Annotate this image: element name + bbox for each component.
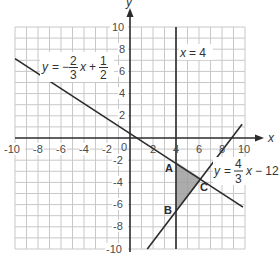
svg-text:x: x [179,46,187,60]
svg-text:+: + [89,60,96,74]
svg-text:x: x [79,60,87,74]
svg-text:-2: -2 [113,154,123,166]
point-label-b: B [164,204,172,216]
point-label-a: A [165,162,173,174]
svg-text:-4: -4 [79,143,89,155]
svg-text:4: 4 [173,143,179,155]
point-label-c: C [200,181,208,193]
line-y-4-3x-minus-12 [147,124,242,249]
equation-label-line1: y = − 2 3 x + 1 2 [40,52,114,82]
svg-text:1: 1 [100,54,107,68]
svg-text:-6: -6 [113,198,123,210]
svg-text:-2: -2 [102,143,112,155]
equation-label-line3: x = 4 [179,44,213,60]
svg-text:y: y [41,60,49,74]
svg-text:-4: -4 [113,176,123,188]
svg-text:6: 6 [196,143,202,155]
svg-text:4: 4 [235,157,242,171]
origin-label: 0 [121,141,127,153]
x-axis-arrow-icon [255,135,264,142]
equation-label-line2: y = 4 3 x − 12 [213,157,279,186]
svg-text:-10: -10 [106,243,122,255]
svg-text:8: 8 [219,143,225,155]
svg-text:8: 8 [119,43,125,55]
svg-text:−: − [62,60,69,74]
svg-text:2: 2 [150,143,156,155]
svg-text:y: y [213,164,221,178]
svg-text:2: 2 [70,54,77,68]
svg-text:=: = [224,164,231,178]
svg-text:= 4: = 4 [189,46,206,60]
svg-text:10: 10 [112,21,124,33]
svg-text:-8: -8 [33,143,43,155]
x-axis-label: x [267,131,275,145]
svg-text:3: 3 [70,68,77,82]
coordinate-plane: x y -10 -8 -6 -4 -2 2 4 6 8 10 0 10 8 6 … [0,0,280,260]
svg-text:-6: -6 [56,143,66,155]
svg-text:− 12: − 12 [255,164,279,178]
svg-text:-8: -8 [113,220,123,232]
svg-text:10: 10 [238,143,250,155]
svg-text:2: 2 [119,109,125,121]
svg-text:2: 2 [100,68,107,82]
svg-text:x: x [245,164,253,178]
y-axis-label: y [125,0,133,9]
svg-text:4: 4 [119,87,125,99]
svg-text:3: 3 [235,172,242,186]
y-axis-arrow-icon [127,8,134,17]
svg-text:-10: -10 [4,143,20,155]
svg-text:=: = [52,60,59,74]
svg-text:6: 6 [119,65,125,77]
